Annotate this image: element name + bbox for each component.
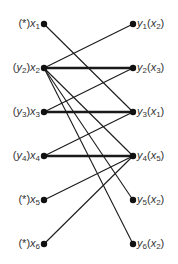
edge-x6-y4: [44, 156, 133, 244]
label-x5: (*)x5: [0, 193, 40, 209]
bipartite-graph: [0, 0, 178, 264]
edge-x5-y4: [44, 156, 133, 200]
node-x1: [41, 21, 47, 27]
label-x3: (y3)x3: [0, 105, 40, 121]
label-y3: y3(x1): [137, 105, 164, 121]
node-x2: [41, 65, 47, 71]
label-x6: (*)x6: [0, 237, 40, 253]
node-x4: [41, 153, 47, 159]
node-x3: [41, 109, 47, 115]
label-y4: y4(x5): [137, 149, 164, 165]
node-y4: [130, 153, 136, 159]
node-y1: [130, 21, 136, 27]
label-y1: y1(x2): [137, 17, 164, 33]
label-x2: (y2)x2: [0, 61, 40, 77]
label-x4: (y4)x4: [0, 149, 40, 165]
edge-x2-y1: [44, 24, 133, 68]
node-x5: [41, 197, 47, 203]
edge-x4-y3: [44, 112, 133, 156]
node-y2: [130, 65, 136, 71]
label-y5: y5(x2): [137, 193, 164, 209]
label-y6: y6(x2): [137, 237, 164, 253]
node-y5: [130, 197, 136, 203]
node-x6: [41, 241, 47, 247]
label-x1: (*)x1: [0, 17, 40, 33]
label-y2: y2(x3): [137, 61, 164, 77]
edge-x3-y2: [44, 68, 133, 112]
node-y6: [130, 241, 136, 247]
node-y3: [130, 109, 136, 115]
